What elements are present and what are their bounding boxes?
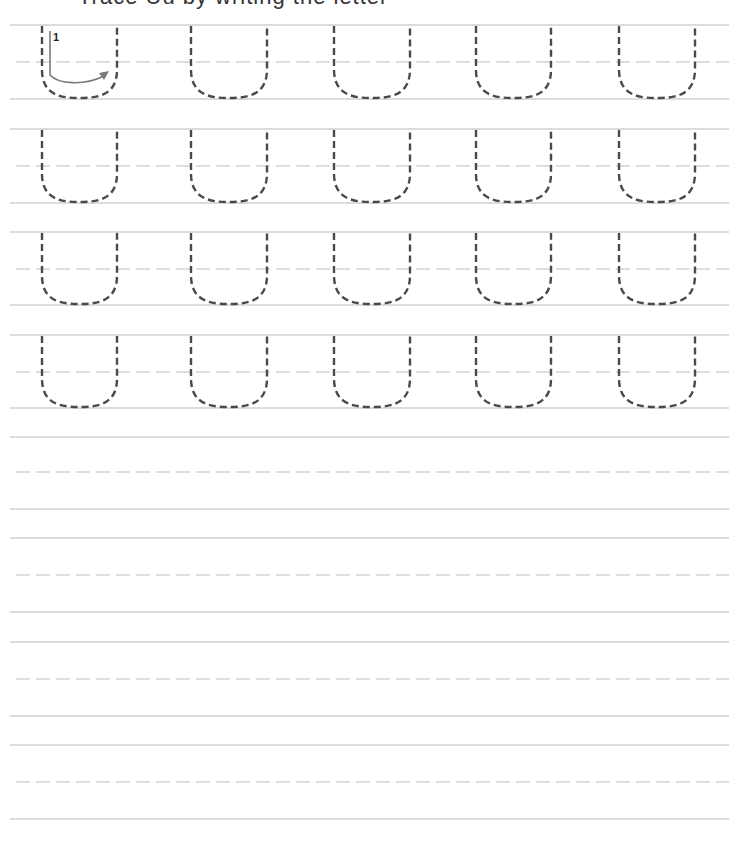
handwriting-worksheet: 1 bbox=[0, 0, 742, 842]
writing-row bbox=[10, 538, 729, 612]
writing-row bbox=[10, 437, 729, 509]
traceable-letters bbox=[42, 26, 695, 407]
arrowhead-icon bbox=[99, 71, 109, 80]
stroke-order-guide: 1 bbox=[50, 31, 109, 83]
writing-row bbox=[10, 745, 729, 819]
writing-row bbox=[10, 642, 729, 716]
stroke-number-label: 1 bbox=[53, 31, 59, 43]
